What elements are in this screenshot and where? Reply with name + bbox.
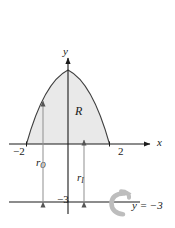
- region-label: R: [75, 105, 82, 117]
- x-tick-label-pos2: 2: [118, 146, 124, 157]
- figure-canvas: [0, 0, 175, 228]
- axis-of-revolution-tick-label: −3: [57, 194, 69, 205]
- outer-radius-label: rO: [36, 157, 46, 170]
- inner-radius-subscript: I: [81, 176, 84, 185]
- inner-radius-label: rI: [77, 172, 84, 185]
- axis-of-revolution-label: y = −3: [132, 200, 163, 211]
- y-axis-label: y: [63, 46, 68, 57]
- outer-radius-subscript: O: [40, 161, 45, 170]
- x-tick-label-neg2: −2: [13, 146, 25, 157]
- washer-method-figure: y x −2 2 R −3 rO rI y = −3: [0, 0, 175, 228]
- x-axis-label: x: [157, 137, 162, 148]
